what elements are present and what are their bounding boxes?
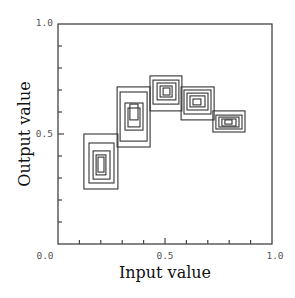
x-tick-label-max: 1.0 (266, 250, 283, 261)
cluster-2 (117, 87, 150, 147)
contour-level (225, 120, 232, 124)
contour-chart: 1.0 0.5 0.0 0.5 1.0 Input value Output v… (0, 0, 295, 298)
contour-clusters (84, 76, 245, 189)
x-tick-label-mid: 0.5 (156, 250, 173, 261)
x-tick-label-min: 0.0 (36, 250, 53, 261)
cluster-4 (181, 87, 214, 120)
contour-level (181, 87, 214, 120)
y-tick-label-max: 1.0 (36, 17, 53, 28)
contour-level (150, 76, 182, 111)
contour-level (130, 104, 138, 120)
contour-level (193, 99, 201, 105)
y-axis-title: Output value (15, 81, 34, 186)
contour-level (98, 157, 104, 172)
cluster-5 (213, 111, 245, 132)
y-tick-label-mid: 0.5 (36, 128, 53, 139)
cluster-1 (84, 134, 118, 189)
contour-level (117, 87, 150, 147)
x-axis-title: Input value (119, 263, 211, 282)
cluster-3 (150, 76, 182, 111)
contour-level (163, 88, 170, 95)
